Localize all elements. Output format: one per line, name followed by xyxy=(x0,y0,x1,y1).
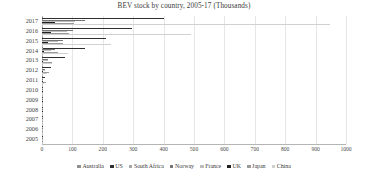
year-row: 2012 xyxy=(42,65,346,75)
bar-china-2015 xyxy=(42,44,111,45)
bar-us-2009 xyxy=(42,97,43,98)
legend-swatch-icon xyxy=(77,165,81,169)
x-tick-label: 800 xyxy=(281,146,289,152)
chart-legend: AustraliaUSSouth AfricaNorwayFranceUKJap… xyxy=(0,163,368,170)
y-axis-year-label: 2010 xyxy=(2,85,38,95)
y-axis-year-label: 2017 xyxy=(2,16,38,26)
y-axis-year-label: 2009 xyxy=(2,95,38,105)
legend-item-australia[interactable]: Australia xyxy=(77,163,104,170)
legend-swatch-icon xyxy=(110,165,114,169)
legend-swatch-icon xyxy=(170,165,174,169)
y-axis-year-label: 2008 xyxy=(2,105,38,115)
legend-label: South Africa xyxy=(134,163,164,170)
x-tick-label: 100 xyxy=(68,146,76,152)
bar-chart: BEV stock by country, 2005-17 (Thousands… xyxy=(0,0,368,179)
x-tick-label: 500 xyxy=(190,146,198,152)
y-axis-year-label: 2012 xyxy=(2,65,38,75)
legend-swatch-icon xyxy=(200,165,204,169)
bar-china-2013 xyxy=(42,63,52,64)
x-tick-label: 0 xyxy=(41,146,44,152)
plot-area: 2017201620152014201320122011201020092008… xyxy=(42,16,346,144)
legend-item-france[interactable]: France xyxy=(200,163,221,170)
gridline-1000 xyxy=(346,16,347,144)
bar-us-2011 xyxy=(42,77,45,78)
x-axis-line xyxy=(42,144,346,145)
x-tick-label: 300 xyxy=(129,146,137,152)
bar-france-2005 xyxy=(42,139,43,140)
legend-swatch-icon xyxy=(129,165,133,169)
bar-us-2007 xyxy=(42,116,43,117)
y-axis-year-label: 2015 xyxy=(2,36,38,46)
y-axis-year-label: 2006 xyxy=(2,124,38,134)
year-row: 2016 xyxy=(42,26,346,36)
bar-japan-2005 xyxy=(42,141,43,142)
year-row: 2013 xyxy=(42,55,346,65)
bar-us-2012 xyxy=(42,67,51,68)
y-axis-year-label: 2005 xyxy=(2,134,38,144)
bar-france-2007 xyxy=(42,119,43,120)
bar-china-2014 xyxy=(42,53,68,54)
legend-label: France xyxy=(205,163,221,170)
bar-china-2016 xyxy=(42,34,191,35)
legend-swatch-icon xyxy=(272,165,276,169)
legend-label: China xyxy=(277,163,291,170)
legend-label: US xyxy=(115,163,123,170)
year-row: 2011 xyxy=(42,75,346,85)
x-tick-label: 400 xyxy=(159,146,167,152)
bar-japan-2006 xyxy=(42,131,43,132)
legend-item-us[interactable]: US xyxy=(110,163,123,170)
bar-us-2015 xyxy=(42,38,106,39)
year-row: 2008 xyxy=(42,105,346,115)
bar-us-2013 xyxy=(42,57,65,58)
bar-china-2010 xyxy=(42,93,43,94)
legend-label: Norway xyxy=(175,163,194,170)
year-row: 2005 xyxy=(42,134,346,144)
year-row: 2010 xyxy=(42,85,346,95)
legend-label: Australia xyxy=(82,163,104,170)
bar-us-2016 xyxy=(42,28,132,29)
year-row: 2007 xyxy=(42,114,346,124)
year-row: 2017 xyxy=(42,16,346,26)
legend-item-norway[interactable]: Norway xyxy=(170,163,194,170)
bar-china-2012 xyxy=(42,73,47,74)
year-row: 2006 xyxy=(42,124,346,134)
year-row: 2014 xyxy=(42,46,346,56)
bar-china-2009 xyxy=(42,103,43,104)
x-tick-label: 600 xyxy=(220,146,228,152)
x-tick-label: 200 xyxy=(99,146,107,152)
bar-us-2010 xyxy=(42,87,43,88)
y-axis-year-label: 2016 xyxy=(2,26,38,36)
bar-china-2008 xyxy=(42,112,43,113)
bar-us-2008 xyxy=(42,107,43,108)
chart-title: BEV stock by country, 2005-17 (Thousands… xyxy=(0,2,368,10)
bar-us-2005 xyxy=(42,136,43,137)
y-axis-year-label: 2014 xyxy=(2,46,38,56)
x-tick-label: 1000 xyxy=(340,146,351,152)
bar-us-2006 xyxy=(42,126,43,127)
legend-label: UK xyxy=(232,163,241,170)
year-row: 2009 xyxy=(42,95,346,105)
x-tick-label: 900 xyxy=(311,146,319,152)
legend-item-china[interactable]: China xyxy=(272,163,291,170)
bar-us-2014 xyxy=(42,48,85,49)
legend-item-uk[interactable]: UK xyxy=(227,163,241,170)
y-axis-year-label: 2011 xyxy=(2,75,38,85)
legend-label: Japan xyxy=(252,163,265,170)
y-axis-year-label: 2007 xyxy=(2,114,38,124)
legend-item-japan[interactable]: Japan xyxy=(247,163,266,170)
bar-france-2006 xyxy=(42,129,43,130)
year-row: 2015 xyxy=(42,36,346,46)
bar-china-2011 xyxy=(42,83,44,84)
bar-china-2007 xyxy=(42,122,43,123)
legend-item-south-africa[interactable]: South Africa xyxy=(129,163,164,170)
x-tick-label: 700 xyxy=(251,146,259,152)
legend-swatch-icon xyxy=(227,165,231,169)
bar-us-2017 xyxy=(42,18,164,19)
bar-china-2017 xyxy=(42,24,330,25)
legend-swatch-icon xyxy=(247,165,251,169)
y-axis-year-label: 2013 xyxy=(2,55,38,65)
